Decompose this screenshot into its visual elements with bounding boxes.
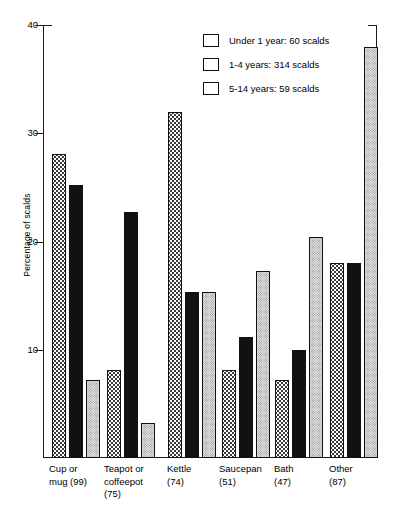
legend-swatch-open-dots-icon [203, 34, 219, 47]
x-axis-label: Cup or mug (99) [49, 463, 87, 488]
legend-label-1-4-years: 1-4 years: 314 scalds [229, 59, 319, 70]
bar [124, 212, 138, 458]
legend-swatch-solid-black-icon [203, 58, 219, 71]
legend-item-5-14-years: 5-14 years: 59 scalds [203, 76, 363, 100]
legend-item-under-1-year: Under 1 year: 60 scalds [203, 28, 363, 52]
bar [292, 350, 306, 458]
bar [69, 185, 83, 458]
legend-item-1-4-years: 1-4 years: 314 scalds [203, 52, 363, 76]
x-axis-label: Teapot or coffeepot (75) [104, 463, 144, 501]
bar [330, 263, 344, 458]
bar [141, 423, 155, 458]
bar [52, 154, 66, 458]
bar [364, 47, 378, 458]
scalds-bar-chart: Percentage of scalds 40 30 20 10 Cup or … [0, 0, 397, 514]
bar [347, 263, 361, 458]
bar [107, 370, 121, 458]
legend-swatch-grey-stipple-icon [203, 82, 219, 95]
bar [275, 380, 289, 458]
x-axis-label: Saucepan (51) [219, 463, 262, 488]
bar [222, 370, 236, 458]
y-axis-tick-labels: 40 30 20 10 [6, 0, 38, 514]
legend-label-under-1-year: Under 1 year: 60 scalds [229, 35, 329, 46]
x-axis-label: Bath (47) [274, 463, 294, 488]
x-axis-labels: Cup or mug (99)Teapot or coffeepot (75)K… [43, 463, 377, 513]
bar [239, 337, 253, 458]
bar [256, 271, 270, 458]
bar [309, 237, 323, 458]
bar [168, 112, 182, 458]
legend-label-5-14-years: 5-14 years: 59 scalds [229, 83, 319, 94]
legend: Under 1 year: 60 scalds 1-4 years: 314 s… [203, 28, 363, 100]
x-axis-label: Kettle (74) [167, 463, 191, 488]
bar [202, 292, 216, 458]
bar [185, 292, 199, 458]
bar [86, 380, 100, 458]
x-axis-label: Other (87) [329, 463, 353, 488]
